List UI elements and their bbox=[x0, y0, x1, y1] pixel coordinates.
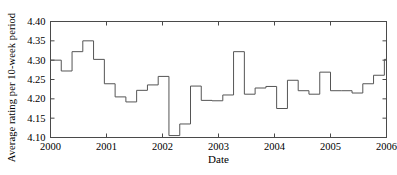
x-tick-label: 2000 bbox=[40, 141, 61, 152]
data-series-step-line bbox=[51, 41, 387, 136]
y-tick-label: 4.25 bbox=[27, 74, 45, 85]
x-tick-label: 2002 bbox=[152, 141, 173, 152]
plot-canvas: 4.104.154.204.254.304.354.40 20002001200… bbox=[0, 0, 397, 175]
x-tick-label: 2003 bbox=[208, 141, 229, 152]
chart-figure: Average rating per 10-week period Date 4… bbox=[0, 0, 397, 175]
x-tick-label: 2001 bbox=[96, 141, 117, 152]
x-tick-label: 2005 bbox=[320, 141, 341, 152]
axes-frame bbox=[51, 22, 387, 138]
step-line-path bbox=[51, 41, 387, 136]
y-tick-label: 4.15 bbox=[27, 113, 45, 124]
x-tick-label: 2004 bbox=[264, 141, 286, 152]
y-tick-label: 4.30 bbox=[27, 55, 45, 66]
y-tick-label: 4.35 bbox=[27, 35, 45, 46]
y-axis-ticks: 4.104.154.204.254.304.354.40 bbox=[27, 16, 386, 143]
y-tick-label: 4.40 bbox=[27, 16, 45, 27]
y-tick-label: 4.20 bbox=[27, 93, 45, 104]
x-tick-label: 2006 bbox=[376, 141, 397, 152]
